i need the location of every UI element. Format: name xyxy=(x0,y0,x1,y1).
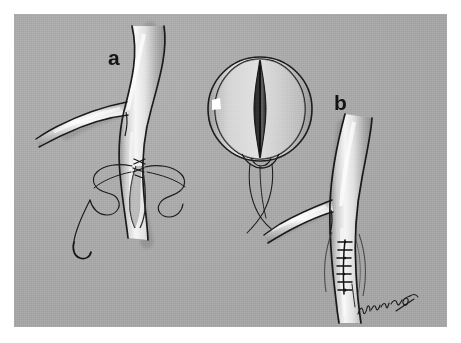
panel-a-suture-thread-right xyxy=(145,166,185,217)
panel-label-a: a xyxy=(108,47,120,68)
panel-a-suture-thread-right-2 xyxy=(147,172,185,187)
white-marker-icon xyxy=(212,98,221,110)
illustration-panel: a b xyxy=(14,14,447,327)
panel-a-suture-thread-to-needle xyxy=(74,200,90,242)
illustration-artwork xyxy=(14,14,447,327)
artist-signature xyxy=(358,295,418,314)
inset-suture-thread-left xyxy=(249,164,278,234)
cross-section-inset xyxy=(208,57,312,234)
curved-needle-icon xyxy=(73,242,91,259)
panel-label-b: b xyxy=(334,92,347,113)
figure-root: a b xyxy=(0,0,461,343)
inset-suture-thread-center xyxy=(260,166,266,218)
